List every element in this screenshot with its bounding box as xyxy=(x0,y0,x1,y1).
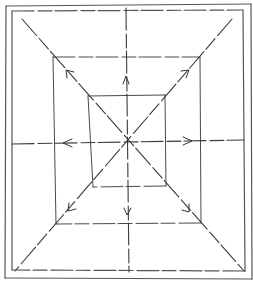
arrow-up-icon xyxy=(123,76,129,84)
arrow-down-icon xyxy=(124,208,131,215)
diagram-canvas xyxy=(0,0,253,283)
perspective-grid-diagram xyxy=(0,0,253,283)
